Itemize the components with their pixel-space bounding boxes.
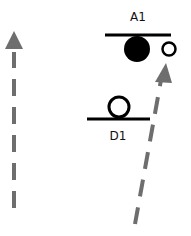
diagram-canvas: A1 D1 bbox=[0, 0, 191, 236]
d1-symbol: D1 bbox=[87, 97, 150, 143]
a1-open-circle-icon bbox=[163, 43, 176, 56]
d1-label: D1 bbox=[110, 129, 127, 143]
d1-open-circle-icon bbox=[109, 97, 129, 117]
left-dashed-arrow bbox=[5, 31, 23, 208]
left-arrow-head-icon bbox=[5, 31, 23, 49]
a1-filled-circle-icon bbox=[124, 36, 150, 62]
a1-label: A1 bbox=[130, 10, 146, 24]
right-arrow-head-icon bbox=[155, 63, 172, 83]
right-dashed-arrow bbox=[135, 63, 172, 224]
right-arrow-shaft bbox=[135, 80, 161, 224]
a1-symbol: A1 bbox=[105, 10, 176, 62]
